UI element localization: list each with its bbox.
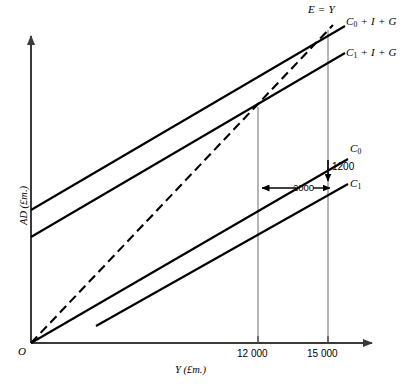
line-c1 <box>96 184 348 326</box>
series-label-c1-only-text: C1 <box>350 177 362 189</box>
series-label-c1-plus-i-plus-g: C1 + I + G <box>346 46 397 60</box>
annotation-label-1200: 1200 <box>332 161 354 172</box>
x-axis-title: Y (£m.) <box>175 364 206 375</box>
y-axis-title: AD (£m.) <box>18 186 29 225</box>
series-label-c0-text: C0 + I + G <box>346 15 397 27</box>
x-tick-label-15000: 15 000 <box>307 348 338 359</box>
series-label-c0-plus-i-plus-g: C0 + I + G <box>346 15 397 29</box>
economics-ad-diagram: E = Y C0 + I + G C1 + I + G C0 C1 1200 2… <box>0 0 410 384</box>
series-label-c0-only-text: C0 <box>350 142 362 154</box>
series-label-c0: C0 <box>350 142 362 156</box>
series-label-c1ig-text: C1 + I + G <box>346 46 397 58</box>
line-c1-plus-i-plus-g <box>31 53 345 237</box>
origin-label: O <box>18 345 26 357</box>
x-tick-marks <box>258 336 328 343</box>
series-label-e-equals-y: E = Y <box>308 3 335 15</box>
series-label-c1: C1 <box>350 177 362 191</box>
axes <box>31 36 372 343</box>
annotation-label-2000: 2000 <box>293 182 314 193</box>
x-tick-label-12000: 12 000 <box>237 348 268 359</box>
